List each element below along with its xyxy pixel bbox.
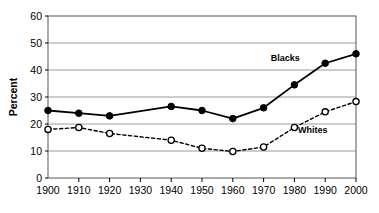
y-tick-label: 40 [30, 64, 42, 76]
y-tick-label: 20 [30, 118, 42, 130]
y-tick-label: 60 [30, 10, 42, 22]
data-point [168, 103, 175, 110]
x-tick-label: 1970 [252, 184, 276, 196]
data-point [168, 137, 174, 143]
data-point [76, 110, 83, 117]
data-point [45, 107, 52, 114]
data-point [230, 148, 236, 154]
line-chart: 0102030405060 Percent 190019101920193019… [0, 0, 379, 213]
series-label-whites: Whites [298, 125, 328, 135]
data-point [106, 113, 113, 120]
data-point [76, 124, 82, 130]
data-point [322, 60, 329, 67]
y-tick-label: 10 [30, 145, 42, 157]
data-point [291, 82, 298, 89]
data-point [291, 124, 297, 130]
series-label-blacks: Blacks [271, 53, 300, 63]
x-tick-label: 1980 [283, 184, 307, 196]
y-tick-label: 30 [30, 91, 42, 103]
data-point [322, 109, 328, 115]
data-point [353, 51, 360, 58]
plot-area [48, 16, 356, 178]
x-tick-label: 1900 [36, 184, 60, 196]
x-tick-labels: 1900191019201930194019501960197019801990… [36, 184, 368, 196]
data-point [260, 105, 267, 112]
chart-container: 0102030405060 Percent 190019101920193019… [0, 0, 379, 213]
y-tick-label: 50 [30, 37, 42, 49]
data-point [353, 98, 359, 104]
x-tick-label: 1960 [221, 184, 245, 196]
x-tick-label: 1950 [190, 184, 214, 196]
x-tick-label: 1930 [129, 184, 153, 196]
x-tick-label: 1910 [67, 184, 91, 196]
data-point [261, 144, 267, 150]
data-point [230, 115, 237, 122]
data-point [107, 130, 113, 136]
data-point [199, 145, 205, 151]
y-axis-label: Percent [7, 77, 19, 116]
x-tick-label: 2000 [344, 184, 368, 196]
data-point [199, 107, 206, 114]
x-tick-label: 1920 [98, 184, 122, 196]
x-tick-label: 1990 [314, 184, 338, 196]
y-tick-label: 0 [36, 172, 42, 184]
x-tick-label: 1940 [160, 184, 184, 196]
data-point [45, 126, 51, 132]
